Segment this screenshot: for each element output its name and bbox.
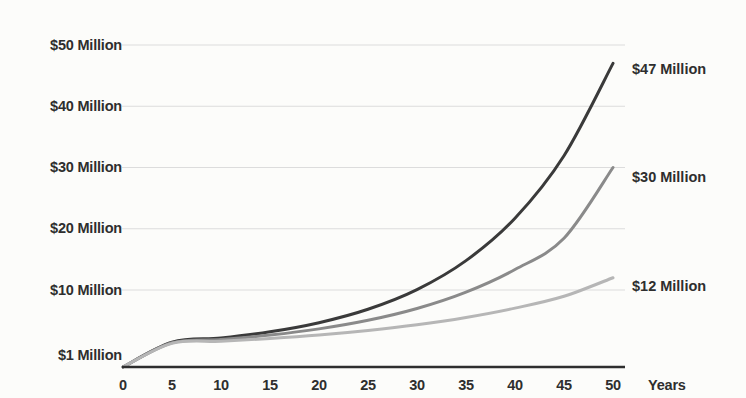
gridlines: [122, 45, 625, 290]
series-end-label-top: $47 Million: [632, 61, 706, 77]
x-axis-label-40: 40: [507, 377, 523, 393]
x-axis-label-20: 20: [311, 377, 327, 393]
y-axis-label-30: $30 Million: [30, 159, 122, 175]
x-axis-label-30: 30: [409, 377, 425, 393]
x-axis-label-25: 25: [360, 377, 376, 393]
x-axis-label-35: 35: [458, 377, 474, 393]
y-axis-label-20: $20 Million: [30, 220, 122, 236]
y-axis-label-10: $10 Million: [30, 282, 122, 298]
x-axis-unit-label: Years: [648, 377, 686, 393]
y-axis-label-50: $50 Million: [30, 37, 122, 53]
growth-line-chart: $50 Million $40 Million $30 Million $20 …: [0, 0, 746, 398]
x-axis-label-0: 0: [119, 377, 127, 393]
series-end-label-bottom: $12 Million: [632, 278, 706, 294]
series-line-3: [123, 278, 613, 367]
y-axis-label-1: $1 Million: [30, 347, 122, 363]
x-axis-label-5: 5: [168, 377, 176, 393]
x-axis-label-15: 15: [262, 377, 278, 393]
series-end-label-middle: $30 Million: [632, 169, 706, 185]
y-axis-label-40: $40 Million: [30, 98, 122, 114]
chart-plot-area: [0, 0, 746, 398]
series-line-2: [123, 168, 613, 368]
x-axis-label-10: 10: [213, 377, 229, 393]
series-lines: [123, 63, 613, 367]
x-axis-label-50: 50: [605, 377, 621, 393]
x-axis-label-45: 45: [556, 377, 572, 393]
